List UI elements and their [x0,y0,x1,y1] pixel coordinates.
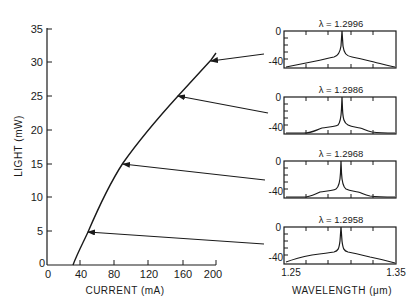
x-axis-title: CURRENT (mA) [85,285,164,296]
spectrum-trace [286,97,395,133]
y-tick-15: 15 [31,158,43,170]
x-ticks [80,260,216,265]
inset-title: λ = 1.2958 [319,214,364,225]
inset-spectrum-1: λ = 1.2996 0 -40 [269,18,396,68]
x-tick-0: 0 [45,268,51,280]
x-tick-200: 200 [204,268,222,280]
arrows [88,54,268,244]
inset-title: λ = 1.2996 [319,18,364,29]
y-tick-30: 30 [31,56,43,68]
arrow-spectrum-1 [211,54,264,61]
arrow-spectrum-3 [123,164,265,180]
inset-spectrum-4: λ = 1.2958 0 -40 [269,214,396,264]
spectrum-trace [286,161,395,197]
inset-y-neg40: -40 [269,186,284,197]
figure: 35 30 25 20 15 10 5 0 0 40 80 120 160 20… [0,0,418,306]
inset-title: λ = 1.2986 [319,84,364,95]
x-tick-120: 120 [140,268,158,280]
x-tick-40: 40 [75,268,87,280]
x-tick-160: 160 [174,268,192,280]
inset-y-0: 0 [275,222,281,233]
x-tick-80: 80 [108,268,120,280]
inset-title: λ = 1.2968 [319,148,364,159]
y-ticks [47,29,52,231]
inset-x-axis-title: WAVELENGTH (μm) [292,285,392,296]
y-tick-20: 20 [31,124,43,136]
arrow-spectrum-2 [178,96,268,113]
inset-x-min: 1.25 [281,267,301,278]
li-curve [73,53,216,265]
y-tick-35: 35 [31,23,43,35]
inset-y-neg40: -40 [269,252,284,263]
y-tick-25: 25 [31,90,43,102]
main-plot: 35 30 25 20 15 10 5 0 0 40 80 120 160 20… [13,23,222,296]
inset-spectrum-3: λ = 1.2968 0 -40 [269,148,396,198]
inset-y-0: 0 [275,26,281,37]
arrow-spectrum-4 [88,232,264,244]
spectrum-trace [286,31,395,67]
y-axis-title: LIGHT (mW) [13,115,24,176]
inset-y-0: 0 [275,92,281,103]
inset-y-neg40: -40 [269,56,284,67]
y-tick-10: 10 [31,191,43,203]
spectrum-trace [286,227,395,263]
inset-spectrum-2: λ = 1.2986 0 -40 [269,84,396,134]
inset-x-max: 1.35 [386,267,406,278]
y-tick-5: 5 [37,225,43,237]
inset-y-neg40: -40 [269,122,284,133]
inset-frame [284,97,396,134]
inset-y-0: 0 [275,156,281,167]
